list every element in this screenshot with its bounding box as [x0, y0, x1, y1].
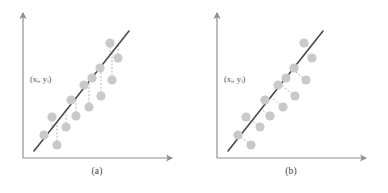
data-point	[299, 38, 308, 47]
panel-b: (xᵢ, yᵢ) (b)	[194, 0, 388, 193]
data-point	[113, 53, 122, 62]
data-point	[39, 130, 48, 139]
data-point	[260, 95, 269, 104]
data-point	[105, 38, 114, 47]
data-point	[61, 122, 70, 131]
data-point	[290, 91, 299, 100]
panel-a-plot: (xᵢ, yᵢ)	[0, 0, 194, 193]
panel-a: (xᵢ, yᵢ) (a)	[0, 0, 194, 193]
data-point	[281, 73, 290, 82]
regression-line	[34, 31, 129, 151]
data-point	[71, 111, 80, 120]
data-point	[96, 91, 105, 100]
data-point	[255, 122, 264, 131]
point-coordinate-label: (xᵢ, yᵢ)	[30, 74, 52, 84]
regression-line	[228, 31, 323, 151]
panel-b-plot: (xᵢ, yᵢ)	[194, 0, 388, 193]
data-point	[307, 53, 316, 62]
panel-a-caption: (a)	[0, 166, 194, 176]
data-point	[265, 111, 274, 120]
data-point	[79, 80, 88, 89]
data-point	[233, 130, 242, 139]
data-point	[241, 112, 250, 121]
data-point	[273, 80, 282, 89]
data-point	[87, 73, 96, 82]
data-point	[246, 140, 255, 149]
data-point	[95, 63, 104, 72]
scatter-regression-figure: (xᵢ, yᵢ) (a) (xᵢ, yᵢ) (b)	[0, 0, 388, 193]
data-point	[52, 140, 61, 149]
data-point	[278, 102, 287, 111]
data-point	[107, 75, 116, 84]
point-coordinate-label: (xᵢ, yᵢ)	[224, 74, 246, 84]
data-point	[84, 102, 93, 111]
data-point	[47, 112, 56, 121]
data-point	[301, 75, 310, 84]
data-point	[66, 95, 75, 104]
data-point	[289, 63, 298, 72]
panel-b-caption: (b)	[194, 166, 388, 176]
